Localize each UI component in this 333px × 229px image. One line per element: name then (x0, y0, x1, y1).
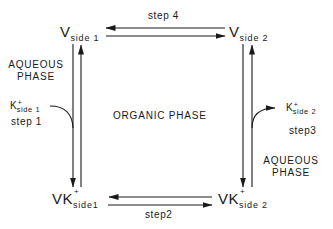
k-side1-binding-curve (50, 106, 73, 128)
node-main: VK (218, 190, 239, 207)
node-v-side2: Vside 2 (229, 24, 268, 39)
phase-line: AQUEOUS (8, 59, 64, 71)
phase-organic: ORGANIC PHASE (113, 110, 207, 122)
phase-aqueous-right: AQUEOUS PHASE (258, 155, 324, 178)
ion-main: K (286, 102, 293, 113)
node-vk-side1: VK+side1 (52, 191, 99, 206)
node-main: V (60, 23, 71, 40)
node-sup: + (240, 188, 245, 196)
phase-line: PHASE (258, 167, 324, 179)
phase-aqueous-left: AQUEOUS PHASE (8, 59, 64, 82)
phase-line: PHASE (8, 71, 64, 83)
ion-k-side1: K+side 1 (10, 101, 40, 111)
node-sub: side 1 (71, 33, 100, 43)
phase-line: AQUEOUS (258, 155, 324, 167)
node-sub: side 2 (239, 200, 268, 210)
step4-label: step 4 (148, 11, 179, 21)
step1-label: step 1 (11, 117, 42, 127)
node-main: VK (52, 190, 73, 207)
node-v-side1: Vside 1 (60, 24, 99, 39)
node-main: V (229, 23, 240, 40)
node-sub: side1 (73, 200, 99, 210)
step2-label: step2 (145, 210, 172, 220)
node-vk-side2: VK+side 2 (218, 191, 268, 206)
ion-k-side2: K+side 2 (286, 103, 316, 113)
node-sup: + (74, 188, 79, 196)
ion-main: K (10, 100, 17, 111)
node-sub: side 2 (240, 33, 269, 43)
k-side2-release-curve (252, 108, 275, 128)
ion-sub: side 2 (293, 107, 317, 116)
step3-label: step3 (289, 126, 316, 136)
ion-sub: side 1 (17, 105, 41, 114)
